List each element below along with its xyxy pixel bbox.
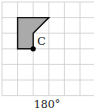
rotation-grid-diagram: C — [0, 0, 94, 100]
grid-lines — [2, 2, 94, 96]
rotation-angle-caption: 180° — [0, 98, 94, 111]
point-c-dot — [31, 46, 36, 51]
point-c-label: C — [37, 35, 45, 48]
